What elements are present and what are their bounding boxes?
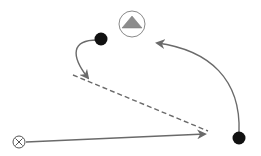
circled-x-icon — [13, 136, 25, 148]
arc-from-dot-bottom-right — [157, 43, 239, 132]
dot-top — [95, 33, 108, 46]
curve-from-dot-top — [76, 40, 97, 78]
dot-bottom-right — [233, 132, 246, 145]
play-diagram — [0, 0, 261, 156]
triangle-in-circle-icon — [119, 11, 145, 37]
dashed-diagonal — [73, 75, 208, 131]
line-from-x — [26, 134, 205, 142]
